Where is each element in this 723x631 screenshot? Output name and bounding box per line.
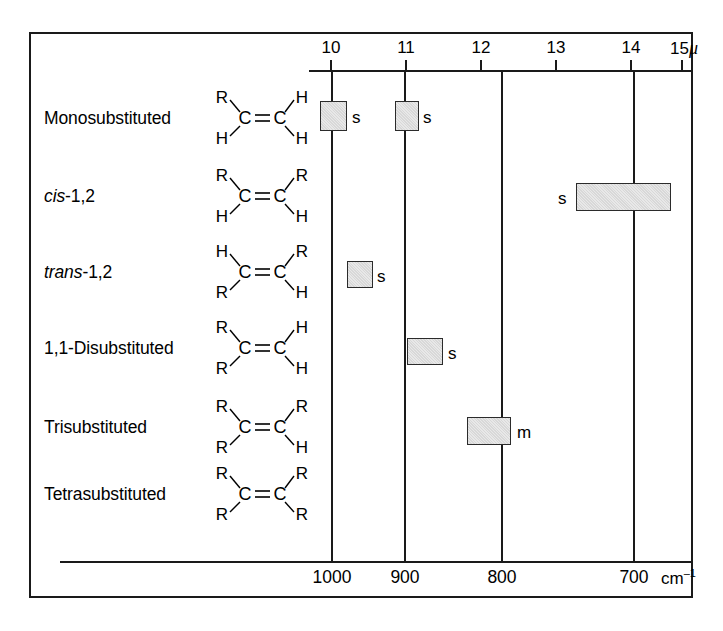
structure-trans-1-2: H R R H C C [210, 240, 320, 302]
bond-right-top [285, 330, 294, 342]
atom-right-top: R [296, 166, 308, 185]
carbon-right: C [274, 484, 287, 504]
atom-right-top: R [296, 397, 308, 416]
bond-left-top [230, 100, 240, 112]
bond-right-bottom [285, 502, 294, 512]
structure-tetrasubstituted: R R R R C C [210, 462, 320, 524]
structure-cis-1-2: R H R H C C [210, 164, 320, 226]
bond-right-top [285, 100, 294, 112]
atom-left-top: R [216, 464, 228, 483]
ir-correlation-figure: Monosubstituted cis-1,2 trans-1,2 1,1-Di… [0, 0, 723, 631]
row-label-text: Trisubstituted [44, 417, 147, 437]
row-label-text: Monosubstituted [44, 108, 171, 128]
atom-right-bottom: H [296, 438, 308, 457]
carbon-right: C [274, 186, 287, 206]
atom-right-bottom: H [296, 359, 308, 378]
atom-right-bottom: H [296, 283, 308, 302]
atom-right-top: H [296, 318, 308, 337]
row-label-text: -1,2 [65, 186, 95, 206]
atom-left-top: R [216, 88, 228, 107]
row-label-trans-1-2: trans-1,2 [44, 262, 219, 282]
row-label-tetrasubstituted: Tetrasubstituted [44, 484, 219, 504]
bond-right-top [285, 476, 294, 488]
atom-left-bottom: R [216, 505, 228, 524]
bond-left-top [230, 409, 240, 421]
bond-left-bottom [230, 502, 240, 512]
bond-right-bottom [285, 435, 294, 445]
carbon-right: C [274, 108, 287, 128]
structure-1-1-disubstituted: R R H H C C [210, 316, 320, 378]
carbon-left: C [239, 108, 252, 128]
atom-right-top: R [296, 464, 308, 483]
atom-right-bottom: H [296, 207, 308, 226]
bond-left-top [230, 330, 240, 342]
structure-trisubstituted: R R R H C C [210, 395, 320, 457]
bond-right-bottom [285, 204, 294, 214]
carbon-left: C [239, 186, 252, 206]
row-label-trisubstituted: Trisubstituted [44, 417, 219, 437]
carbon-left: C [239, 338, 252, 358]
bond-right-top [285, 178, 294, 190]
bond-left-bottom [230, 280, 240, 290]
bond-right-bottom [285, 356, 294, 366]
bond-left-bottom [230, 126, 240, 136]
atom-right-bottom: R [296, 505, 308, 524]
bond-left-bottom [230, 204, 240, 214]
atom-left-top: R [216, 397, 228, 416]
carbon-left: C [239, 262, 252, 282]
atom-right-bottom: H [296, 129, 308, 148]
atom-right-top: H [296, 88, 308, 107]
row-label-text: 1,1-Disubstituted [44, 338, 174, 358]
row-label-text: -1,2 [82, 262, 112, 282]
carbon-right: C [274, 262, 287, 282]
bond-left-bottom [230, 356, 240, 366]
carbon-left: C [239, 484, 252, 504]
atom-left-bottom: H [216, 129, 228, 148]
row-label-monosubstituted: Monosubstituted [44, 108, 219, 128]
bond-left-top [230, 178, 240, 190]
row-label-text: Tetrasubstituted [44, 484, 166, 504]
carbon-left: C [239, 417, 252, 437]
bond-right-bottom [285, 126, 294, 136]
bond-left-top [230, 476, 240, 488]
atom-left-bottom: H [216, 207, 228, 226]
carbon-right: C [274, 338, 287, 358]
bond-right-bottom [285, 280, 294, 290]
atom-right-top: R [296, 242, 308, 261]
row-label-cis-1-2: cis-1,2 [44, 186, 219, 206]
carbon-right: C [274, 417, 287, 437]
row-label-italic-prefix: cis [44, 186, 65, 206]
row-label-italic-prefix: trans [44, 262, 82, 282]
bond-right-top [285, 254, 294, 266]
atom-left-bottom: R [216, 283, 228, 302]
bond-left-top [230, 254, 240, 266]
bond-left-bottom [230, 435, 240, 445]
atom-left-bottom: R [216, 438, 228, 457]
atom-left-top: H [216, 242, 228, 261]
atom-left-top: R [216, 318, 228, 337]
row-label-1-1-disubstituted: 1,1-Disubstituted [44, 338, 219, 358]
atom-left-top: R [216, 166, 228, 185]
bond-right-top [285, 409, 294, 421]
atom-left-bottom: R [216, 359, 228, 378]
structure-monosubstituted: R H H H C C [210, 86, 320, 148]
